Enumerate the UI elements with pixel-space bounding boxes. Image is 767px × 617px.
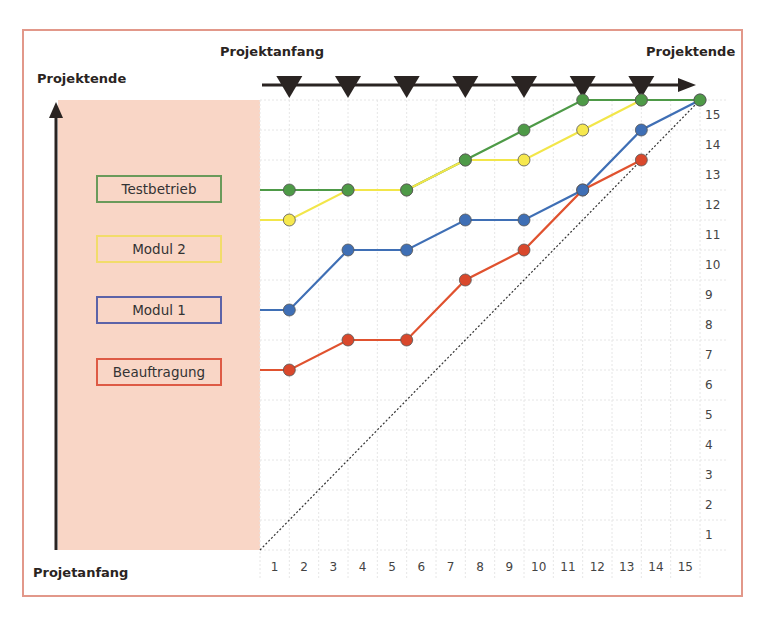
y-tick-label: 5 — [705, 408, 713, 422]
data-point-beauftragung — [459, 274, 471, 286]
data-point-beauftragung — [635, 154, 647, 166]
series-line-testbetrieb — [260, 100, 700, 190]
x-tick-label: 1 — [271, 560, 279, 574]
data-point-testbetrieb — [577, 94, 589, 106]
data-point-modul-2 — [518, 154, 530, 166]
y-tick-label: 8 — [705, 318, 713, 332]
data-point-modul-1 — [342, 244, 354, 256]
milestone-triangle-icon — [452, 76, 478, 98]
y-tick-label: 3 — [705, 468, 713, 482]
x-tick-label: 5 — [388, 560, 396, 574]
x-tick-label: 9 — [506, 560, 514, 574]
data-point-beauftragung — [518, 244, 530, 256]
data-point-testbetrieb — [635, 94, 647, 106]
x-tick-label: 10 — [531, 560, 546, 574]
x-tick-label: 8 — [476, 560, 484, 574]
milestone-triangle-icon — [276, 76, 302, 98]
x-tick-label: 3 — [330, 560, 338, 574]
data-point-testbetrieb — [694, 94, 706, 106]
y-tick-label: 11 — [705, 228, 720, 242]
data-point-modul-2 — [283, 214, 295, 226]
y-tick-label: 15 — [705, 108, 720, 122]
y-tick-label: 14 — [705, 138, 720, 152]
data-point-testbetrieb — [342, 184, 354, 196]
y-tick-label: 4 — [705, 438, 713, 452]
milestone-triangle-icon — [335, 76, 361, 98]
y-tick-label: 12 — [705, 198, 720, 212]
y-tick-label: 9 — [705, 288, 713, 302]
milestone-triangle-icon — [394, 76, 420, 98]
data-point-modul-1 — [635, 124, 647, 136]
data-point-testbetrieb — [401, 184, 413, 196]
arrow-up-icon — [49, 102, 63, 118]
y-tick-label: 6 — [705, 378, 713, 392]
data-point-modul-1 — [459, 214, 471, 226]
series-line-modul-1 — [260, 100, 700, 310]
data-point-modul-2 — [577, 124, 589, 136]
y-tick-label: 2 — [705, 498, 713, 512]
data-point-testbetrieb — [518, 124, 530, 136]
data-point-modul-1 — [518, 214, 530, 226]
data-point-beauftragung — [342, 334, 354, 346]
y-tick-label: 13 — [705, 168, 720, 182]
chart-plot: 1234567891011121314151514131211109876543… — [0, 0, 767, 617]
data-point-modul-1 — [283, 304, 295, 316]
y-tick-label: 7 — [705, 348, 713, 362]
x-tick-label: 11 — [560, 560, 575, 574]
data-point-modul-1 — [577, 184, 589, 196]
x-tick-label: 6 — [418, 560, 426, 574]
y-tick-label: 1 — [705, 528, 713, 542]
data-point-modul-1 — [401, 244, 413, 256]
x-tick-label: 14 — [648, 560, 663, 574]
data-point-beauftragung — [283, 364, 295, 376]
diagonal-reference-line — [260, 100, 700, 550]
data-point-beauftragung — [401, 334, 413, 346]
data-point-testbetrieb — [459, 154, 471, 166]
x-tick-label: 4 — [359, 560, 367, 574]
x-tick-label: 15 — [678, 560, 693, 574]
arrow-right-icon — [678, 78, 696, 92]
x-tick-label: 7 — [447, 560, 455, 574]
data-point-testbetrieb — [283, 184, 295, 196]
x-tick-label: 2 — [300, 560, 308, 574]
x-tick-label: 12 — [590, 560, 605, 574]
x-tick-label: 13 — [619, 560, 634, 574]
y-tick-label: 10 — [705, 258, 720, 272]
milestone-triangle-icon — [511, 76, 537, 98]
